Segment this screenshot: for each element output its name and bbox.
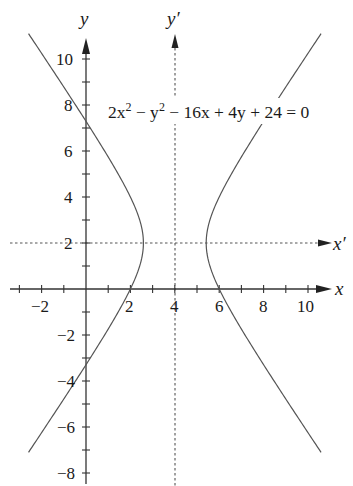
equation-label: 2x2 − y2 − 16x + 4y + 24 = 0 (108, 100, 310, 122)
y-tick-label: −2 (57, 326, 75, 345)
x-tick-label: 8 (259, 297, 268, 316)
y-tick-label: 4 (64, 188, 73, 207)
x-tick-label: 10 (297, 297, 314, 316)
y-tick-label: −8 (57, 464, 75, 483)
y-tick-label: 6 (64, 142, 73, 161)
x-prime-axis-label: x′ (332, 233, 346, 254)
x-axis-label: x (334, 278, 344, 299)
y-tick-label: 8 (64, 96, 73, 115)
y-tick-label: 10 (56, 50, 73, 69)
x-tick-label: 2 (125, 297, 134, 316)
y-tick-label: 2 (64, 234, 73, 253)
hyperbola-diagram: y y′ x x′ −2 2 4 6 8 10 10 8 6 4 2 −2 −4… (0, 0, 353, 486)
x-tick-label: 4 (170, 297, 179, 316)
y-axis-label: y (78, 8, 89, 29)
y-axis-arrow-icon (82, 38, 90, 54)
x-axis-arrow-icon (316, 285, 332, 293)
y-tick-label: −4 (57, 372, 76, 391)
x-tick-label: −2 (31, 297, 49, 316)
x-prime-arrow-icon (318, 240, 332, 247)
x-tick-label: 6 (215, 297, 224, 316)
y-tick-label: −6 (57, 418, 75, 437)
y-prime-arrow-icon (172, 34, 179, 48)
y-prime-axis-label: y′ (165, 8, 180, 29)
hyperbola-right-branch (206, 34, 321, 453)
